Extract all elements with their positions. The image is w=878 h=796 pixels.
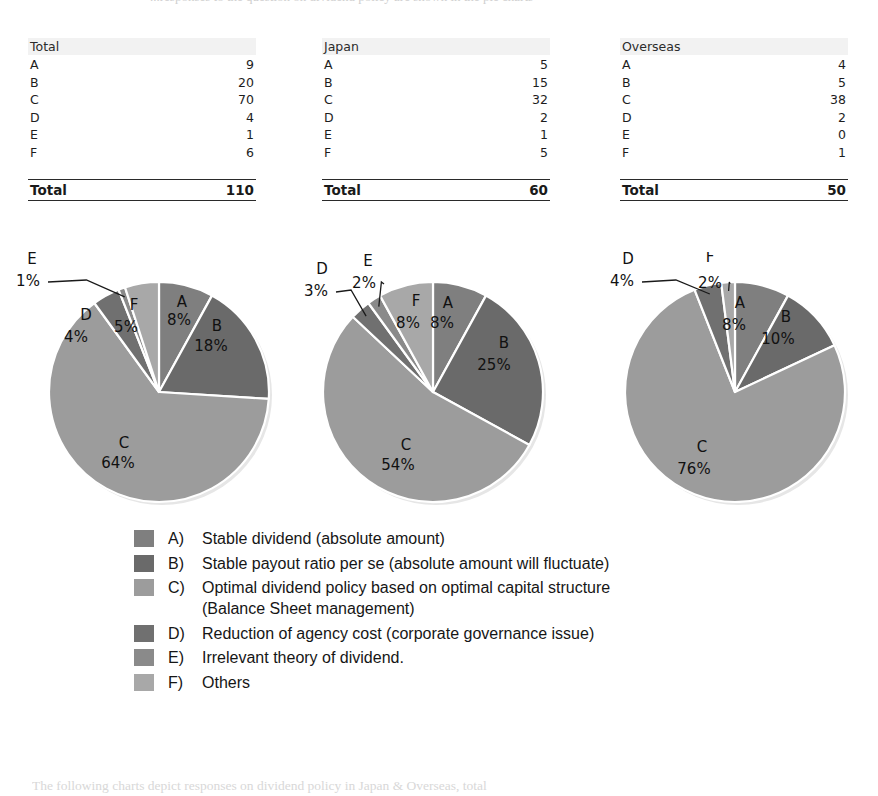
legend-item-e: E) Irrelevant theory of dividend. (134, 647, 834, 668)
svg-text:25%: 25% (477, 356, 510, 374)
svg-text:4%: 4% (64, 328, 88, 346)
svg-text:A: A (735, 294, 746, 312)
legend-text-d-line1: Reduction of agency cost (corporate gove… (202, 625, 594, 642)
pie-chart-group: A8%B18%C64%D4%F5%E1% A8%B25%C54%F8%D3%E2… (0, 252, 878, 520)
svg-text:54%: 54% (381, 456, 414, 474)
svg-text:10%: 10% (761, 330, 794, 348)
table-row: D 2 (620, 109, 848, 127)
legend-item-d: D) Reduction of agency cost (corporate g… (134, 623, 834, 644)
svg-text:B: B (781, 308, 791, 326)
row-value: 0 (838, 126, 846, 144)
table-spacer (28, 161, 256, 177)
legend-swatch-a (134, 530, 154, 547)
table-body-total: A 9 B 20 C 70 D 4 E 1 F 6 (28, 55, 256, 161)
row-category: A (30, 56, 39, 74)
table-body-japan: A 5 B 15 C 32 D 2 E 1 F 5 (322, 55, 550, 161)
row-category: E (622, 126, 630, 144)
svg-text:3%: 3% (304, 282, 328, 300)
table-row: D 4 (28, 109, 256, 127)
row-value: 5 (540, 144, 548, 162)
legend-item-c: C) Optimal dividend policy based on opti… (134, 577, 834, 619)
legend-swatch-d (134, 625, 154, 642)
total-value: 110 (226, 180, 254, 200)
table-row: C 38 (620, 91, 848, 109)
row-value: 4 (246, 109, 254, 127)
row-value: 2 (838, 109, 846, 127)
svg-text:A: A (177, 293, 188, 311)
table-row: F 6 (28, 144, 256, 162)
svg-text:D: D (316, 260, 328, 278)
legend-key-a: A) (168, 528, 202, 549)
row-category: B (622, 74, 631, 92)
summary-tables: Total A 9 B 20 C 70 D 4 E 1 F (0, 38, 878, 238)
table-spacer (620, 161, 848, 177)
svg-text:F: F (130, 296, 139, 314)
table-row: B 20 (28, 74, 256, 92)
row-category: C (324, 91, 333, 109)
row-category: E (30, 126, 38, 144)
legend-text-d: Reduction of agency cost (corporate gove… (202, 623, 594, 644)
legend-key-b: B) (168, 553, 202, 574)
svg-text:E: E (27, 252, 36, 268)
table-row: D 2 (322, 109, 550, 127)
svg-text:B: B (212, 317, 222, 335)
row-value: 4 (838, 56, 846, 74)
legend-text-f-line1: Others (202, 674, 250, 691)
row-category: F (324, 144, 331, 162)
total-value: 50 (827, 180, 846, 200)
svg-text:D: D (622, 252, 634, 268)
table-total-row: Total 60 (322, 179, 550, 201)
table-header-total: Total (28, 38, 256, 55)
row-category: C (622, 91, 631, 109)
table-row: C 32 (322, 91, 550, 109)
row-value: 5 (540, 56, 548, 74)
row-value: 1 (540, 126, 548, 144)
svg-text:18%: 18% (194, 337, 227, 355)
row-category: D (30, 109, 40, 127)
row-value: 6 (246, 144, 254, 162)
legend-text-b: Stable payout ratio per se (absolute amo… (202, 553, 609, 574)
svg-text:1%: 1% (16, 272, 40, 290)
legend-key-c: C) (168, 577, 202, 598)
row-value: 5 (838, 74, 846, 92)
row-category: E (324, 126, 332, 144)
row-value: 1 (838, 144, 846, 162)
legend-swatch-e (134, 649, 154, 666)
svg-text:B: B (499, 334, 509, 352)
table-total-row: Total 110 (28, 179, 256, 201)
legend-item-b: B) Stable payout ratio per se (absolute … (134, 553, 834, 574)
top-clipped-text: ...responses to the question on dividend… (150, 0, 533, 5)
legend-text-f: Others (202, 672, 250, 693)
svg-text:8%: 8% (167, 311, 191, 329)
row-category: A (622, 56, 631, 74)
row-value: 1 (246, 126, 254, 144)
pie-chart-japan: A8%B25%C54%F8%D3%E2% (288, 252, 578, 520)
pie-chart-total: A8%B18%C64%D4%F5%E1% (14, 252, 304, 520)
table-total-row: Total 50 (620, 179, 848, 201)
table-japan: Japan A 5 B 15 C 32 D 2 E 1 F (322, 38, 550, 201)
total-label: Total (324, 180, 361, 200)
svg-text:F: F (412, 292, 421, 310)
chart-legend: A) Stable dividend (absolute amount) B) … (134, 528, 834, 696)
legend-text-e-line1: Irrelevant theory of dividend. (202, 649, 404, 666)
row-category: B (324, 74, 333, 92)
row-value: 70 (238, 91, 254, 109)
svg-text:4%: 4% (610, 272, 634, 290)
pie-overseas-svg: A8%B10%C76%D4%F2% (590, 252, 878, 520)
svg-text:A: A (443, 294, 454, 312)
svg-text:C: C (119, 434, 129, 452)
svg-text:5%: 5% (114, 318, 138, 336)
table-row: E 0 (620, 126, 848, 144)
legend-key-d: D) (168, 623, 202, 644)
svg-text:2%: 2% (352, 274, 376, 292)
row-category: D (324, 109, 334, 127)
table-row: F 1 (620, 144, 848, 162)
table-total: Total A 9 B 20 C 70 D 4 E 1 F (28, 38, 256, 201)
legend-text-e: Irrelevant theory of dividend. (202, 647, 404, 668)
legend-key-f: F) (168, 672, 202, 693)
svg-text:76%: 76% (677, 460, 710, 478)
total-value: 60 (529, 180, 548, 200)
table-row: B 5 (620, 74, 848, 92)
row-category: C (30, 91, 39, 109)
table-row: E 1 (322, 126, 550, 144)
